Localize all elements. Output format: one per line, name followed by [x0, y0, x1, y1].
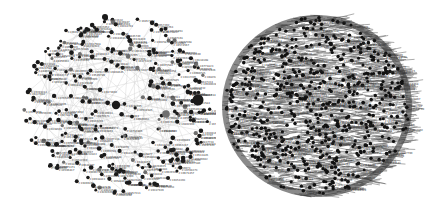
- node-label: 2:19106763: [262, 64, 278, 67]
- graph-node: [367, 134, 370, 137]
- node-label: 2:19992701: [101, 150, 117, 153]
- node-label: 2:19381920: [161, 130, 177, 133]
- node-label: 2:19607783: [103, 157, 119, 160]
- node-label: 2:19664799: [408, 108, 424, 111]
- node-label: 2:19332947: [144, 178, 160, 181]
- node-label: 2:19556317: [308, 30, 324, 33]
- node-label: 2:19040622: [352, 50, 368, 53]
- node-label: 2:19400909: [82, 78, 98, 81]
- node-label: 2:19175320: [136, 60, 152, 63]
- node-label: 2:19297422: [199, 144, 215, 147]
- graph-node: [265, 132, 268, 135]
- node-label: 2:19331632: [107, 19, 123, 22]
- graph-node: [263, 58, 266, 61]
- node-label: 2:19010270: [334, 144, 350, 147]
- graph-node: [342, 63, 345, 66]
- network-graph-left-canvas: 2:192572112:190117132:193041632:19394801…: [0, 0, 216, 208]
- graph-node: [357, 57, 360, 60]
- graph-node: [312, 61, 316, 65]
- node-label: 2:19922292: [407, 129, 423, 132]
- graph-node: [268, 174, 271, 177]
- node-label: 2:19765456: [56, 97, 72, 100]
- node-label: 2:19588340: [268, 132, 284, 135]
- graph-node: [293, 114, 297, 118]
- node-label: 2:19798055: [113, 146, 129, 149]
- node-label: 2:19835287: [204, 76, 216, 79]
- node-label: 2:19500830: [296, 53, 312, 56]
- node-label: 2:19193025: [126, 105, 142, 108]
- node-label: 2:19441410: [266, 140, 282, 143]
- node-label: 2:19052581: [285, 188, 301, 191]
- node-label: 2:19439171: [248, 95, 264, 98]
- node-label: 2:19882911: [305, 89, 321, 92]
- node-label: 2:19196001: [174, 139, 190, 142]
- node-label: 2:19559399: [36, 112, 52, 115]
- graph-node: [283, 54, 286, 57]
- node-label: 2:19408645: [108, 71, 124, 74]
- node-label: 2:19691990: [114, 165, 130, 168]
- node-label: 2:19663877: [298, 77, 314, 80]
- graph-node: [388, 150, 392, 154]
- graph-node: [280, 55, 284, 59]
- node-label: 2:19203391: [366, 171, 382, 174]
- node-label: 2:19371926: [200, 69, 216, 72]
- node-label: 2:19412058: [292, 62, 308, 65]
- graph-node: [342, 53, 345, 56]
- node-label: 2:19966902: [254, 130, 270, 133]
- node-label: 2:19688666: [235, 145, 251, 148]
- node-label: 2:19291705: [344, 60, 360, 63]
- graph-node: [356, 92, 359, 95]
- network-graph-right-canvas: 2:193459492:194400392:197490172:19080438…: [216, 0, 433, 208]
- network-graph-left: 2:192572112:190117132:193041632:19394801…: [0, 0, 216, 208]
- network-graph-right: 2:193459492:194400392:197490172:19080438…: [216, 0, 433, 208]
- node-label: 2:19513845: [192, 154, 208, 157]
- node-label: 2:19534243: [238, 84, 254, 87]
- graph-node: [295, 21, 299, 25]
- node-label: 2:19962531: [350, 78, 366, 81]
- node-label: 2:19171480: [51, 78, 67, 81]
- graph-node: [280, 185, 283, 188]
- node-label: 2:19744623: [360, 177, 376, 180]
- node-label: 2:19666042: [167, 148, 183, 151]
- graph-node: [278, 159, 282, 163]
- graph-node: [285, 124, 289, 128]
- node-label: 2:19502374: [182, 66, 198, 69]
- node-label: 2:19582831: [287, 156, 303, 159]
- node-label: 2:19770926: [340, 103, 356, 106]
- graph-node: [324, 40, 327, 43]
- node-label: 2:19962247: [172, 144, 188, 147]
- hub-node: [112, 101, 120, 109]
- graph-node: [331, 51, 334, 54]
- node-label: 2:19603198: [116, 194, 132, 197]
- node-label: 2:19696104: [263, 80, 279, 83]
- node-label: 2:19244300: [360, 164, 376, 167]
- node-label: 2:19471936: [259, 116, 275, 119]
- node-label: 2:19677897: [405, 98, 421, 101]
- node-label: 2:19285504: [389, 155, 405, 158]
- node-label: 2:19477823: [139, 69, 155, 72]
- node-label: 2:19339299: [373, 159, 389, 162]
- node-label: 2:19590032: [118, 171, 134, 174]
- graph-node: [381, 80, 384, 83]
- node-label: 2:19418548: [323, 30, 339, 33]
- node-label: 2:19316768: [403, 83, 419, 86]
- node-label: 2:19770060: [252, 90, 268, 93]
- graph-node: [293, 70, 297, 74]
- node-label: 2:19129628: [72, 70, 88, 73]
- node-label: 2:19770924: [261, 53, 277, 56]
- graph-node: [330, 166, 334, 170]
- graph-node: [372, 58, 376, 62]
- graph-node: [321, 167, 324, 170]
- graph-node: [260, 126, 264, 130]
- node-label: 2:19194974: [102, 127, 118, 130]
- node-label: 2:19128857: [358, 124, 374, 127]
- hub-node: [193, 95, 204, 106]
- node-label: 2:19699375: [305, 192, 321, 195]
- node-label: 2:19835877: [137, 153, 153, 156]
- node-label: 2:19344043: [110, 37, 126, 40]
- node-label: 2:19545061: [35, 99, 51, 102]
- graph-node: [314, 113, 318, 117]
- node-label: 2:19243212: [31, 91, 47, 94]
- graph-node: [269, 111, 273, 115]
- node-label: 2:19376192: [343, 139, 359, 142]
